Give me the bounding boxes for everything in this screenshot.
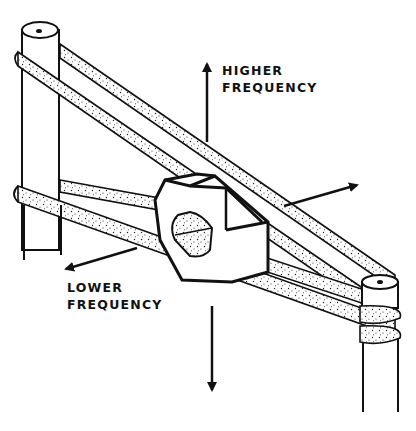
right-arrow bbox=[284, 185, 357, 206]
frequency-tuning-diagram bbox=[0, 0, 416, 431]
lower-label-line2: FREQUENCY bbox=[67, 296, 163, 313]
left-arrow bbox=[66, 248, 137, 269]
right-post bbox=[360, 275, 401, 412]
lower-frequency-label: LOWER FREQUENCY bbox=[67, 279, 163, 313]
lower-label-line1: LOWER bbox=[67, 279, 163, 296]
higher-frequency-label: HIGHER FREQUENCY bbox=[222, 62, 318, 96]
left-post bbox=[22, 22, 59, 250]
higher-label-line1: HIGHER bbox=[222, 62, 318, 79]
higher-label-line2: FREQUENCY bbox=[222, 79, 318, 96]
